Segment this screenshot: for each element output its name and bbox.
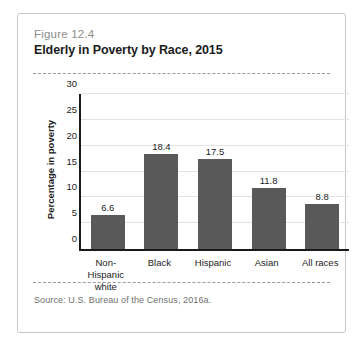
x-axis-label: Asian: [240, 257, 294, 293]
bar-value-label: 8.8: [316, 191, 329, 202]
bar-slot: 11.8: [242, 94, 296, 249]
figure-title: Elderly in Poverty by Race, 2015: [34, 42, 334, 59]
source-note: Source: U.S. Bureau of the Census, 2016a…: [34, 295, 211, 305]
y-axis-tick-label: 20: [66, 129, 77, 140]
bar-value-label: 11.8: [260, 175, 278, 186]
divider-bottom: [33, 282, 330, 283]
y-axis-tick-label: 15: [66, 155, 77, 166]
y-axis-title: Percentage in poverty: [45, 105, 56, 235]
bar-slot: 18.4: [135, 94, 189, 249]
divider-top: [33, 73, 330, 74]
bar-slot: 17.5: [188, 94, 242, 249]
bar: [198, 159, 232, 249]
figure-number: Figure 12.4: [34, 26, 334, 42]
bar: [144, 154, 178, 249]
figure-card: Figure 12.4 Elderly in Poverty by Race, …: [17, 13, 346, 333]
y-axis-tick-label: 0: [72, 233, 77, 244]
x-axis-label-line: All races: [293, 257, 347, 269]
x-axis-label: All races: [293, 257, 347, 293]
y-axis-tick-label: 10: [66, 181, 77, 192]
x-axis-label: Non-Hispanicwhite: [79, 257, 133, 293]
x-axis-label-line: Hispanic: [186, 257, 240, 269]
bar-series: 6.618.417.511.88.8: [81, 94, 349, 249]
y-axis-tick-label: 25: [66, 103, 77, 114]
x-axis-label-line: Non-Hispanic: [79, 257, 133, 281]
bar: [252, 188, 286, 249]
x-axis-label-line: Black: [133, 257, 187, 269]
bar-chart: Percentage in poverty 051015202530 6.618…: [29, 86, 337, 278]
x-axis-label-line: Asian: [240, 257, 294, 269]
bar-slot: 8.8: [295, 94, 349, 249]
bar-value-label: 6.6: [101, 202, 114, 213]
x-axis-labels: Non-HispanicwhiteBlackHispanicAsianAll r…: [79, 257, 347, 293]
bar: [305, 204, 339, 249]
x-axis-label: Hispanic: [186, 257, 240, 293]
x-axis-label: Black: [133, 257, 187, 293]
y-axis-tick-label: 30: [66, 78, 77, 89]
figure-header: Figure 12.4 Elderly in Poverty by Race, …: [34, 26, 334, 59]
bar-value-label: 18.4: [152, 141, 171, 152]
plot-area: 051015202530 6.618.417.511.88.8: [79, 94, 349, 251]
bar: [91, 215, 125, 249]
plot-wrapper: 051015202530 6.618.417.511.88.8: [79, 94, 337, 278]
bar-value-label: 17.5: [206, 146, 225, 157]
y-axis-tick-label: 5: [72, 207, 77, 218]
bar-slot: 6.6: [81, 94, 135, 249]
